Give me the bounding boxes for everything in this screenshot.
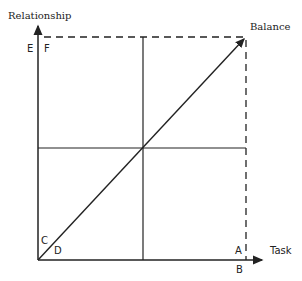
balance-label: Balance [250, 21, 291, 32]
task-relationship-grid-diagram: Relationship Balance E F C D A B Task [0, 0, 302, 281]
point-c-label: C [41, 235, 48, 246]
point-a-label: A [235, 245, 242, 256]
point-d-label: D [54, 245, 62, 256]
point-f-label: F [44, 43, 50, 54]
point-b-label: B [236, 264, 243, 275]
x-axis-label: Task [269, 245, 292, 256]
y-axis-label: Relationship [8, 10, 71, 21]
point-e-label: E [27, 43, 33, 54]
balance-diagonal-arrow [38, 39, 244, 260]
